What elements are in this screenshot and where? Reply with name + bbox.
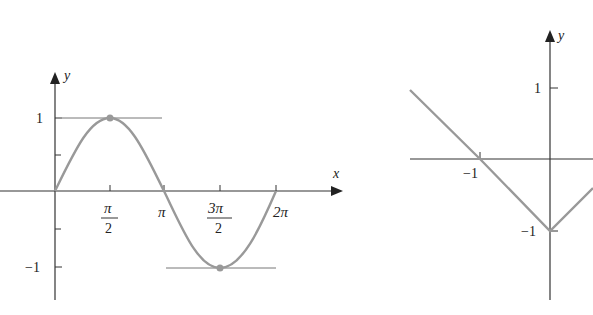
figure: y x 1 −1 π 2 π 3π 2 2π y 1 −1 −1 [0, 0, 593, 315]
x-axis-label: x [332, 166, 340, 181]
min-point [217, 265, 224, 272]
abs-curve [410, 90, 593, 231]
svg-text:π: π [104, 200, 112, 216]
abs-chart: y 1 −1 −1 [410, 28, 593, 300]
svg-text:1: 1 [534, 81, 541, 96]
x-axis-arrow-icon [331, 186, 343, 196]
y-tick-neg1: −1 [25, 260, 40, 275]
svg-text:3π: 3π [207, 200, 224, 216]
y-axis-label: y [62, 68, 71, 83]
y-axis-arrow-icon [50, 72, 60, 84]
sine-chart: y x 1 −1 π 2 π 3π 2 2π [0, 68, 343, 300]
svg-text:2: 2 [105, 221, 112, 236]
svg-text:−1: −1 [521, 224, 536, 239]
svg-text:2: 2 [215, 221, 222, 236]
y-axis-label: y [556, 28, 565, 43]
svg-text:π: π [158, 204, 166, 220]
svg-text:2π: 2π [273, 204, 289, 220]
max-point [107, 115, 114, 122]
y-tick-1: 1 [36, 111, 43, 126]
svg-text:−1: −1 [463, 166, 478, 181]
sine-curve [55, 118, 276, 268]
y-axis-arrow-icon [545, 30, 555, 42]
